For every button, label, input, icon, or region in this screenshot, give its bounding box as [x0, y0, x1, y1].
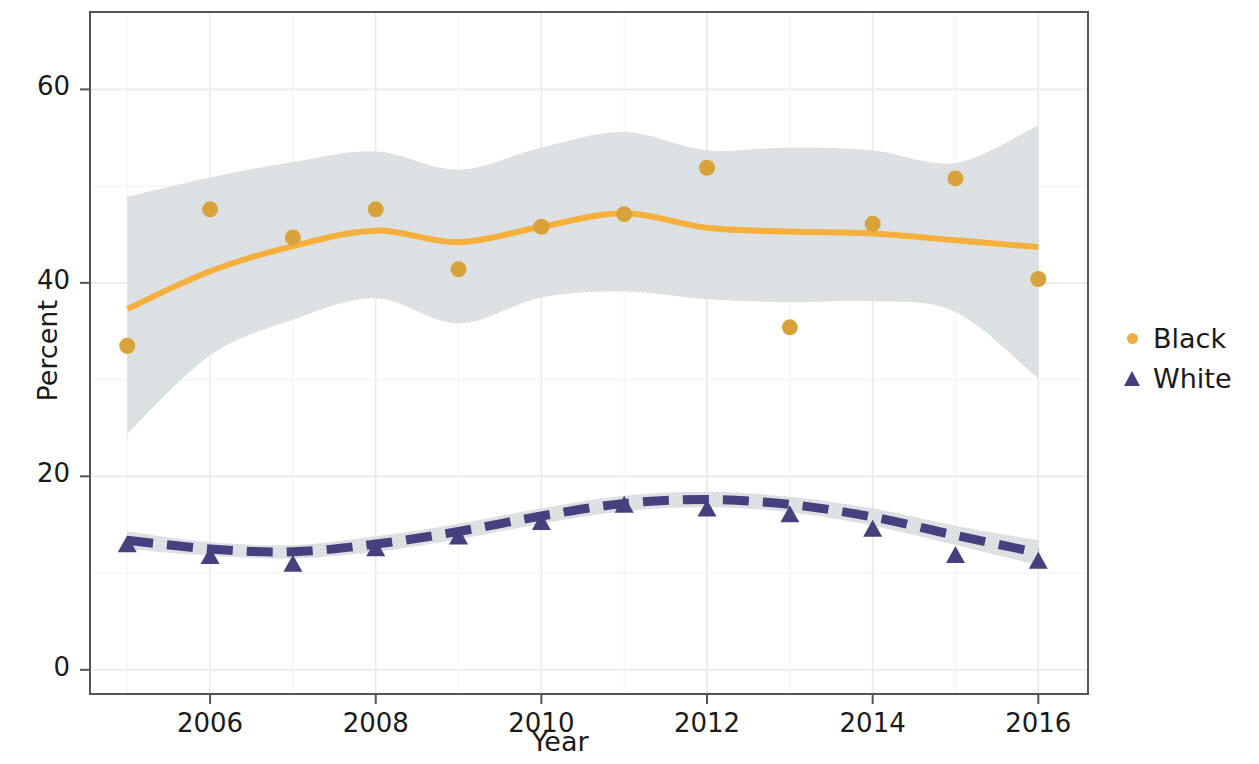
triangle-marker-icon	[1115, 371, 1149, 386]
legend-label: Black	[1153, 323, 1226, 354]
legend-item-black[interactable]: Black	[1115, 318, 1255, 358]
y-axis-title: Percent	[32, 300, 63, 402]
legend-item-white[interactable]: White	[1115, 358, 1255, 398]
y-tick-label: 20	[10, 458, 70, 488]
y-tick-label: 0	[10, 652, 70, 682]
x-axis-title: Year	[0, 726, 1120, 757]
circle-marker-icon	[1115, 333, 1149, 344]
legend-label: White	[1153, 363, 1232, 394]
plot-area	[0, 0, 1259, 764]
y-tick-label: 60	[10, 71, 70, 101]
chart-legend: Black White	[1115, 318, 1255, 398]
y-tick-label: 40	[10, 265, 70, 295]
chart-figure: 0 20 40 60 2006 2008 2010 2012 2014 2016…	[0, 0, 1259, 764]
